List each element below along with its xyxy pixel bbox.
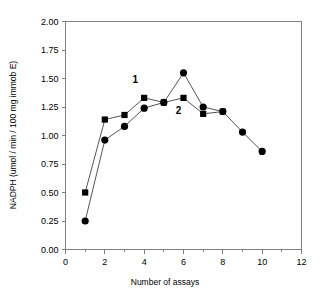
- data-point: [200, 111, 206, 117]
- y-tick-label: 1.75: [41, 45, 59, 55]
- x-axis-title: Number of assays: [131, 277, 200, 287]
- y-tick-label: 1.00: [41, 131, 59, 141]
- data-point: [121, 123, 128, 130]
- chart-canvas: 024681012 0.000.250.500.751.001.251.501.…: [0, 0, 321, 298]
- x-tick-label: 4: [142, 257, 147, 267]
- x-tick-label: 8: [220, 257, 225, 267]
- series-2: [82, 69, 266, 224]
- x-tick-label: 0: [63, 257, 68, 267]
- x-axis-tick-labels: 024681012: [63, 257, 307, 267]
- data-point: [200, 103, 207, 110]
- data-point: [219, 108, 226, 115]
- y-tick-label: 0.75: [41, 159, 59, 169]
- y-tick-label: 0.50: [41, 188, 59, 198]
- y-tick-label: 1.25: [41, 102, 59, 112]
- series-label-1: 1: [133, 74, 139, 85]
- data-point: [121, 112, 127, 118]
- y-axis-tick-labels: 0.000.250.500.751.001.251.501.752.00: [41, 17, 59, 255]
- y-tick-label: 2.00: [41, 17, 59, 27]
- axis-ticks: [62, 22, 302, 254]
- data-point: [141, 105, 148, 112]
- y-tick-label: 0.00: [41, 245, 59, 255]
- y-tick-label: 0.25: [41, 216, 59, 226]
- data-point: [82, 189, 88, 195]
- series-inline-labels: 12: [133, 74, 182, 116]
- series-line: [85, 73, 262, 221]
- data-point: [239, 128, 246, 135]
- x-tick-label: 6: [181, 257, 186, 267]
- y-axis-title: NADPH (umol / min / 100 mg immob E): [8, 61, 18, 209]
- data-point: [180, 69, 187, 76]
- x-tick-label: 10: [257, 257, 267, 267]
- x-tick-label: 2: [102, 257, 107, 267]
- chart-figure: 024681012 0.000.250.500.751.001.251.501.…: [0, 0, 321, 298]
- data-point: [259, 148, 266, 155]
- data-point: [82, 217, 89, 224]
- data-point: [180, 95, 186, 101]
- data-point: [102, 116, 108, 122]
- x-tick-label: 12: [296, 257, 306, 267]
- data-point: [160, 99, 167, 106]
- data-series-group: [82, 69, 266, 224]
- data-point: [141, 95, 147, 101]
- y-tick-label: 1.50: [41, 74, 59, 84]
- series-label-2: 2: [176, 105, 182, 116]
- data-point: [101, 136, 108, 143]
